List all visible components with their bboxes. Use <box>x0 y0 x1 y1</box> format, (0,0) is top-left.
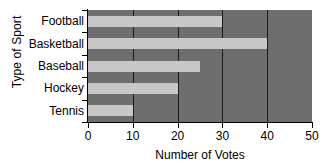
bar-football <box>88 16 222 27</box>
bar-hockey <box>88 83 178 94</box>
bar-tennis <box>88 105 133 116</box>
x-tick-10 <box>133 123 134 128</box>
y-tick-3 <box>82 77 87 78</box>
x-tick-label-0: 0 <box>73 129 103 143</box>
category-label-basketball: Basketball <box>12 38 84 50</box>
x-axis-title: Number of Votes <box>88 148 312 162</box>
x-tick-label-10: 10 <box>118 129 148 143</box>
x-axis-line <box>87 122 313 123</box>
gridline-40 <box>267 10 268 122</box>
y-tick-5 <box>82 122 87 123</box>
x-tick-20 <box>178 123 179 128</box>
y-tick-1 <box>82 32 87 33</box>
category-label-hockey: Hockey <box>12 82 84 94</box>
x-tick-label-50: 50 <box>297 129 324 143</box>
y-tick-2 <box>82 55 87 56</box>
x-tick-label-30: 30 <box>207 129 237 143</box>
plot-area <box>88 10 312 122</box>
x-tick-0 <box>88 123 89 128</box>
x-tick-label-20: 20 <box>163 129 193 143</box>
category-axis-labels: FootballBasketballBaseballHockeyTennis <box>12 10 84 122</box>
x-tick-50 <box>312 123 313 128</box>
gridline-30 <box>222 10 223 122</box>
category-label-baseball: Baseball <box>12 60 84 72</box>
bar-baseball <box>88 61 200 72</box>
bar-basketball <box>88 38 267 49</box>
y-tick-0 <box>82 10 87 11</box>
category-label-football: Football <box>12 15 84 27</box>
bar-chart: Type of Sport FootballBasketballBaseball… <box>0 0 324 168</box>
x-tick-label-40: 40 <box>252 129 282 143</box>
y-tick-4 <box>82 100 87 101</box>
category-label-tennis: Tennis <box>12 105 84 117</box>
x-tick-30 <box>222 123 223 128</box>
x-tick-40 <box>267 123 268 128</box>
